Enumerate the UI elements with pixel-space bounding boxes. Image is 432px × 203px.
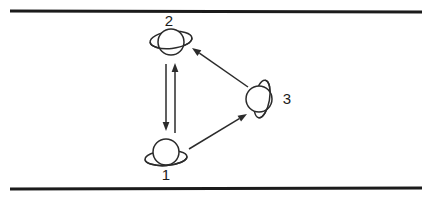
diagram-svg: 1 2 3 [0, 0, 432, 203]
edge-1-to-2 [172, 63, 179, 133]
edge-1-to-3-line [189, 119, 239, 149]
edge-1-to-3-arrowhead [238, 114, 247, 122]
edge-3-to-2-arrowhead [192, 48, 201, 56]
top-rule [10, 11, 422, 12]
node-2: 2 [149, 12, 193, 55]
node-1: 1 [145, 139, 188, 183]
node-3: 3 [246, 79, 291, 119]
planet-with-ring-icon [158, 29, 184, 55]
node-1-label: 1 [162, 166, 170, 183]
planet-with-ring-icon [153, 139, 179, 165]
edge-1-to-3 [189, 114, 247, 149]
edge-3-to-2-line [199, 53, 248, 87]
edge-1-to-2-arrowhead [172, 63, 179, 72]
diagram-canvas: 1 2 3 [0, 0, 432, 203]
edge-3-to-2 [192, 48, 248, 87]
edge-2-to-1-arrowhead [163, 122, 170, 131]
bottom-rule [10, 188, 422, 189]
edge-2-to-1 [163, 64, 170, 131]
node-2-label: 2 [165, 12, 173, 29]
node-3-label: 3 [283, 90, 291, 107]
